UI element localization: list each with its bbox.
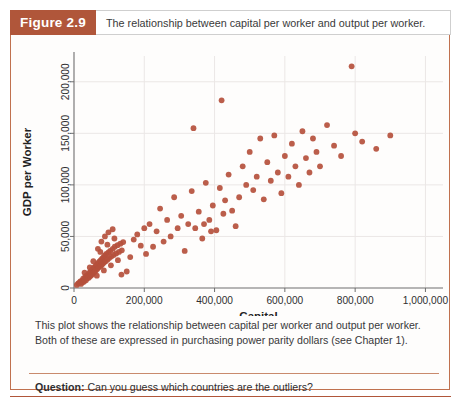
- data-point: [119, 247, 125, 253]
- x-tick-label: 800,000: [337, 295, 374, 306]
- data-point: [138, 243, 144, 249]
- data-point: [108, 262, 114, 268]
- data-point: [90, 258, 96, 264]
- data-point: [236, 194, 242, 200]
- figure-caption: This plot shows the relationship between…: [35, 318, 425, 347]
- data-point: [208, 228, 214, 234]
- data-point: [338, 153, 344, 159]
- data-point: [168, 234, 174, 240]
- data-point: [278, 190, 284, 196]
- data-point: [101, 268, 107, 274]
- data-point: [387, 133, 393, 139]
- question-line: Question: Can you guess which countries …: [35, 381, 435, 393]
- data-point: [127, 254, 133, 260]
- y-tick-label: 200,000: [60, 63, 71, 100]
- data-point: [271, 133, 277, 139]
- data-point: [219, 97, 225, 103]
- data-point: [359, 139, 365, 145]
- y-tick-label: 100,000: [60, 166, 71, 203]
- y-tick-label: 0: [60, 285, 71, 291]
- data-point: [275, 170, 281, 176]
- data-point: [233, 223, 239, 229]
- data-point: [161, 239, 167, 245]
- figure-container: Figure 2.9 The relationship between capi…: [10, 10, 450, 390]
- data-point: [124, 269, 130, 275]
- y-axis-label: GDP per Worker: [21, 127, 33, 216]
- caption-divider: [29, 373, 439, 374]
- data-point: [191, 125, 197, 131]
- figure-title-bar: The relationship between capital per wor…: [96, 10, 451, 35]
- data-point: [250, 187, 256, 193]
- data-point: [243, 182, 249, 188]
- data-point: [349, 63, 355, 69]
- data-point: [296, 182, 302, 188]
- data-point: [220, 211, 226, 217]
- data-point: [143, 251, 149, 257]
- y-tick-label: 50,000: [60, 221, 71, 252]
- data-point: [82, 270, 88, 276]
- data-point: [164, 217, 170, 223]
- data-point: [282, 153, 288, 159]
- data-point: [104, 242, 110, 248]
- data-point: [192, 225, 198, 231]
- x-tick-label: 600,000: [266, 295, 303, 306]
- data-point: [331, 143, 337, 149]
- data-point: [185, 221, 191, 227]
- data-point: [134, 231, 140, 237]
- data-point: [157, 206, 163, 212]
- data-point: [189, 188, 195, 194]
- data-point: [196, 209, 202, 215]
- data-point: [131, 237, 137, 243]
- bottom-rule: [10, 396, 451, 397]
- figure-header: Figure 2.9 The relationship between capi…: [10, 10, 451, 35]
- data-point: [264, 159, 270, 165]
- scatter-chart: 0200,000400,000600,000800,0001,000,00005…: [11, 36, 449, 316]
- y-tick-label: 150,000: [60, 115, 71, 152]
- x-tick-label: 400,000: [196, 295, 233, 306]
- data-point: [217, 185, 223, 191]
- data-point: [110, 226, 116, 232]
- data-point: [201, 221, 207, 227]
- data-point: [175, 225, 181, 231]
- data-point: [268, 178, 274, 184]
- question-label: Question:: [35, 381, 84, 393]
- data-point: [257, 136, 263, 142]
- data-point: [352, 130, 358, 136]
- x-tick-label: 1,000,000: [403, 295, 449, 306]
- data-point: [120, 239, 126, 245]
- x-axis-label: Capital: [239, 310, 277, 316]
- data-point: [261, 196, 267, 202]
- data-point: [94, 273, 100, 279]
- data-point: [254, 174, 260, 180]
- data-point: [307, 170, 313, 176]
- data-point: [324, 122, 330, 128]
- data-point: [300, 128, 306, 134]
- data-point: [199, 236, 205, 242]
- question-text: Can you guess which countries are the ou…: [87, 381, 313, 393]
- data-point: [115, 257, 121, 263]
- x-tick-label: 200,000: [126, 295, 163, 306]
- data-point: [206, 217, 212, 223]
- data-point: [150, 244, 156, 250]
- data-point: [314, 149, 320, 155]
- data-point: [289, 141, 295, 147]
- data-point: [154, 228, 160, 234]
- data-point: [210, 203, 216, 209]
- data-point: [293, 163, 299, 169]
- data-point: [229, 208, 235, 214]
- data-point: [178, 213, 184, 219]
- figure-number-badge: Figure 2.9: [10, 10, 96, 35]
- data-point: [182, 248, 188, 254]
- data-point: [112, 236, 118, 242]
- data-point: [285, 174, 291, 180]
- data-point: [171, 194, 177, 200]
- data-point: [240, 163, 246, 169]
- data-point: [95, 246, 101, 252]
- data-point: [213, 227, 219, 233]
- data-point: [203, 180, 209, 186]
- data-point: [119, 272, 125, 278]
- figure-title: The relationship between capital per wor…: [96, 17, 425, 29]
- data-point: [99, 239, 105, 245]
- data-point: [226, 172, 232, 178]
- data-point: [141, 225, 147, 231]
